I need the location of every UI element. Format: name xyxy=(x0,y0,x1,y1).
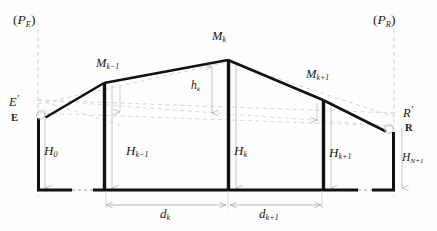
profile-segment-mkp1-to-r xyxy=(323,100,386,132)
mast-next-subscript: k+1 xyxy=(316,73,329,82)
construction-chord-left-falling xyxy=(38,100,120,125)
profile-segment-mkm1-to-mk xyxy=(104,60,228,83)
support-masts xyxy=(39,60,394,189)
paren-close-right: ) xyxy=(391,12,396,27)
mast-mid-symbol: M xyxy=(212,29,222,43)
mast-prev-subscript: k−1 xyxy=(106,62,119,71)
label-span-k-plus-1: dk+1 xyxy=(259,207,279,222)
label-sag-height: hk xyxy=(191,80,200,93)
height-mid-symbol: H xyxy=(234,143,243,158)
label-height-k-plus-1: Hk+1 xyxy=(329,146,352,161)
plane-right-symbol: P xyxy=(378,12,386,27)
height-next-symbol: H xyxy=(329,145,338,160)
height-prev-symbol: H xyxy=(126,143,135,158)
point-e-symbol: E xyxy=(11,112,18,123)
label-plane-left: (PE) xyxy=(13,13,35,29)
height-prev-subscript: k−1 xyxy=(135,150,148,159)
figure-container: (PE) (PR) Mk−1 Mk Mk+1 hk E′ E R′ R H0 H… xyxy=(0,0,437,231)
mast-mid-subscript: k xyxy=(222,35,226,44)
paren-close-left: ) xyxy=(31,12,36,27)
label-point-e-prime: E′ xyxy=(9,94,19,109)
height-next-subscript: k+1 xyxy=(338,152,351,161)
point-marker-r xyxy=(385,125,393,133)
mast-next-symbol: M xyxy=(306,67,316,81)
label-height-0: H0 xyxy=(44,144,58,159)
span-k1-subscript: k+1 xyxy=(266,213,279,222)
prime-mark-e: ′ xyxy=(17,93,20,104)
label-plane-right: (PR) xyxy=(373,13,395,29)
label-point-r: R xyxy=(405,123,413,134)
span-dimension-lines xyxy=(106,191,322,209)
point-r-symbol: R xyxy=(405,122,413,133)
height-last-subscript: N+1 xyxy=(410,157,423,165)
sag-height-subscript: k xyxy=(197,85,200,93)
label-height-k: Hk xyxy=(234,144,247,159)
prime-mark-r: ′ xyxy=(411,104,414,115)
label-point-r-prime: R′ xyxy=(403,105,413,120)
construction-horizontal-upper xyxy=(38,100,394,113)
height-mid-subscript: k xyxy=(243,150,247,159)
construction-chord-long xyxy=(38,100,394,126)
label-mast-k-minus-1: Mk−1 xyxy=(96,57,119,71)
label-span-k: dk xyxy=(160,207,170,222)
span-k-subscript: k xyxy=(167,213,171,222)
plane-left-symbol: P xyxy=(18,12,26,27)
height-0-subscript: 0 xyxy=(53,150,57,159)
construction-horizontal-lower xyxy=(38,113,394,126)
label-height-k-minus-1: Hk−1 xyxy=(126,144,149,159)
label-point-e: E xyxy=(11,113,18,124)
point-r-prime-symbol: R xyxy=(403,106,411,120)
mast-prev-symbol: M xyxy=(96,56,106,70)
point-e-prime-symbol: E xyxy=(9,95,17,109)
height-witness-lines xyxy=(45,62,402,188)
height-0-symbol: H xyxy=(44,143,53,158)
label-mast-k-plus-1: Mk+1 xyxy=(306,68,329,82)
construction-lines xyxy=(38,62,394,126)
label-height-n-plus-1: HN+1 xyxy=(402,152,424,165)
label-mast-k: Mk xyxy=(212,30,226,44)
